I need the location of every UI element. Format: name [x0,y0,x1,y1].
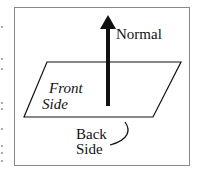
back-side-curve [110,122,128,145]
normal-label: Normal [116,26,162,42]
back-side-label-line1: Back [76,126,107,142]
back-side-label-line2: Side [76,141,103,157]
front-side-label-line2: Side [42,96,68,112]
normal-arrow-head [100,15,116,29]
front-side-label-line1: Front [49,80,83,96]
